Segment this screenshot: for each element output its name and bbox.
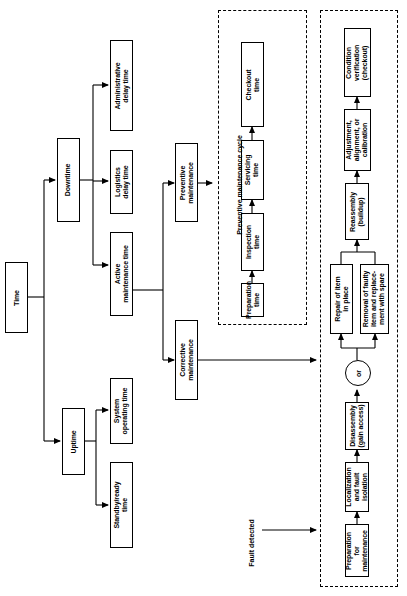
node-checkout-time-label: Checkout time (245, 69, 261, 100)
node-condition-verification-checkout: Condition verification (checkout) (344, 28, 371, 97)
node-logistics-delay-time-label: Logistics delay time (114, 165, 130, 198)
preventive-maintenance-cycle-label-wrap: Preventive maintenance cycle (190, 165, 290, 179)
node-standby-ready-time: Standby/ready time (110, 462, 133, 548)
node-preparation-for-maintenance: Preparation for maintenance (345, 524, 369, 577)
node-preparation-time-label: Preparation time (245, 281, 261, 319)
fault-detected-annotation-wrap: Fault detected (222, 523, 282, 537)
node-time: Time (5, 262, 28, 333)
node-checkout-time: Checkout time (241, 42, 264, 127)
fault-detected-annotation: Fault detected (248, 513, 256, 573)
node-administrative-delay-time: Administrative delay time (110, 40, 133, 131)
node-uptime: Uptime (62, 408, 85, 475)
node-inspection-time: Inspection time (241, 213, 264, 271)
node-condition-verification-checkout-label: Condition verification (checkout) (346, 44, 370, 80)
preventive-maintenance-cycle-label: Preventive maintenance cycle (236, 135, 244, 235)
node-disassembly-gain-access: Disassembly (gain access) (345, 402, 369, 450)
node-disassembly-gain-access-label: Disassembly (gain access) (349, 404, 365, 447)
node-active-maintenance-time: Active maintenance time (110, 232, 133, 316)
node-uptime-label: Uptime (70, 430, 78, 453)
node-time-label: Time (13, 290, 21, 306)
node-localization-and-fault-isolation: Localization and fault isolation (345, 462, 369, 512)
node-reassembly-buildup: Reassembly (buildup) (345, 183, 369, 240)
node-downtime: Downtime (57, 138, 80, 222)
node-corrective-maintenance-label: Corrective maintenance (179, 339, 195, 381)
node-administrative-delay-time-label: Administrative delay time (114, 62, 130, 109)
diagram-canvas: Time Downtime Uptime Administrative dela… (0, 0, 407, 596)
node-preparation-time: Preparation time (241, 283, 264, 317)
node-downtime-label: Downtime (65, 164, 73, 197)
node-active-maintenance-time-label: Active maintenance time (114, 245, 130, 303)
or-gate-label: or (355, 370, 362, 377)
node-localization-and-fault-isolation-label: Localization and fault isolation (345, 467, 369, 506)
node-inspection-time-label: Inspection time (245, 225, 261, 259)
node-repair-of-item-in-place-label: Repair of item in place (334, 276, 350, 321)
node-repair-of-item-in-place: Repair of item in place (330, 264, 353, 334)
node-reassembly-buildup-label: Reassembly (buildup) (349, 192, 365, 232)
node-corrective-maintenance: Corrective maintenance (175, 320, 198, 400)
node-system-operating-time: System operating time (110, 378, 133, 444)
node-removal-of-faulty-item-label: Removal of faulty item and replace- ment… (363, 271, 387, 328)
node-logistics-delay-time: Logistics delay time (110, 150, 133, 214)
node-preventive-maintenance: Preventive maintenance (175, 143, 198, 222)
node-adjustment-alignment-calibration: Adjustment, alignment, or calibration (344, 109, 371, 171)
node-standby-ready-time-label: Standby/ready time (114, 482, 130, 529)
node-system-operating-time-label: System operating time (114, 388, 130, 435)
or-gate: or (345, 360, 371, 386)
node-removal-of-faulty-item: Removal of faulty item and replace- ment… (360, 264, 389, 334)
node-preparation-for-maintenance-label: Preparation for maintenance (345, 530, 369, 572)
node-adjustment-alignment-calibration-label: Adjustment, alignment, or calibration (346, 119, 370, 162)
